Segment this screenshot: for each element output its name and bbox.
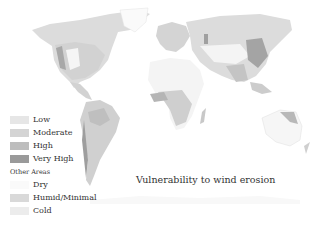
legend-other-heading: Other Areas [10, 168, 96, 176]
legend-item-very-high: Very High [10, 153, 96, 164]
legend-label: Moderate [33, 129, 72, 137]
legend-label: Very High [33, 155, 73, 163]
legend-swatch [10, 116, 29, 124]
legend-swatch [10, 142, 29, 150]
europe [156, 22, 190, 52]
legend-swatch [10, 207, 29, 215]
legend-label: Humid/Minimal [33, 194, 96, 202]
legend-item-high: High [10, 140, 96, 151]
legend-swatch [10, 129, 29, 137]
map-title: Vulnerability to wind erosion [136, 174, 275, 185]
legend: Low Moderate High Very High Other Areas … [10, 114, 96, 218]
legend-label: Cold [33, 207, 52, 215]
legend-item-dry: Dry [10, 179, 96, 190]
legend-swatch [10, 181, 29, 189]
central-america [70, 82, 92, 100]
legend-item-low: Low [10, 114, 96, 125]
legend-item-cold: Cold [10, 205, 96, 216]
legend-item-moderate: Moderate [10, 127, 96, 138]
legend-label: Low [33, 116, 50, 124]
legend-label: High [33, 142, 53, 150]
legend-swatch [10, 155, 29, 163]
legend-swatch [10, 194, 29, 202]
australia [262, 110, 302, 146]
antarctica [90, 196, 300, 204]
legend-label: Dry [33, 181, 48, 189]
legend-item-humid-minimal: Humid/Minimal [10, 192, 96, 203]
